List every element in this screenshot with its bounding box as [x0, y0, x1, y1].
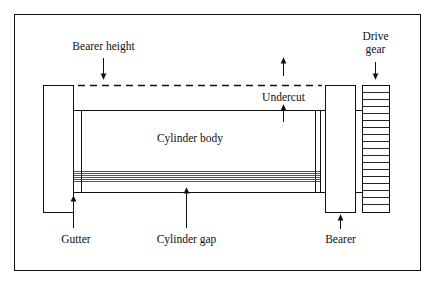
cylinder-body: [82, 111, 316, 193]
label-cylinder-gap: Cylinder gap: [157, 233, 217, 246]
label-drive-gear-line2: gear: [366, 43, 386, 56]
figure-canvas: Bearer height Undercut Drive gear Cylind…: [0, 0, 436, 284]
label-cylinder-body: Cylinder body: [157, 132, 223, 145]
left-bearer: [44, 86, 74, 213]
label-bearer-height: Bearer height: [72, 40, 135, 53]
label-bearer: Bearer: [325, 233, 356, 245]
drive-gear: [363, 86, 390, 213]
right-bearer: [326, 86, 356, 213]
label-gutter: Gutter: [61, 233, 91, 245]
label-undercut: Undercut: [262, 91, 306, 103]
label-drive-gear-line1: Drive: [362, 30, 388, 42]
cylinder-diagram: Bearer height Undercut Drive gear Cylind…: [0, 0, 436, 284]
